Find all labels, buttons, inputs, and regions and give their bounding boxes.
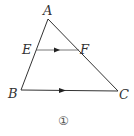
triangle-diagram: A B C E F ① — [0, 0, 134, 136]
label-a: A — [42, 3, 52, 18]
label-e: E — [21, 42, 32, 57]
label-b: B — [7, 86, 18, 101]
parallel-arrow-ef-icon — [54, 48, 60, 53]
parallel-arrow-bc-icon — [59, 88, 66, 93]
label-f: F — [79, 42, 90, 57]
segment-bc — [21, 90, 118, 91]
label-c: C — [119, 87, 129, 102]
figure-caption: ① — [58, 114, 69, 128]
